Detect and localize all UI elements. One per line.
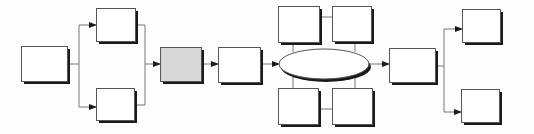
box-body	[161, 48, 202, 82]
ellipse-node-n6[interactable]	[279, 49, 371, 82]
box-node-n1[interactable]	[22, 47, 71, 85]
ellipse-body	[279, 49, 369, 79]
box-body	[97, 9, 136, 42]
box-node-n11[interactable]	[390, 49, 439, 86]
box-node-n4[interactable]	[161, 48, 205, 85]
box-node-n3[interactable]	[97, 89, 138, 124]
box-body	[463, 10, 501, 43]
box-node-n2[interactable]	[97, 9, 139, 45]
box-node-n9[interactable]	[279, 89, 322, 128]
box-body	[279, 89, 319, 125]
connector-n11-n13	[444, 66, 461, 112]
connector-n11-n12	[435, 29, 462, 66]
box-body	[22, 47, 68, 82]
box-node-n10[interactable]	[333, 89, 376, 128]
flowchart-canvas	[0, 0, 534, 134]
box-node-n8[interactable]	[333, 7, 375, 45]
box-body	[279, 7, 320, 43]
box-body	[97, 89, 135, 121]
box-body	[333, 7, 372, 42]
box-body	[462, 90, 500, 123]
flowchart-diagram	[0, 0, 534, 134]
connector-n1-n2	[67, 25, 96, 64]
box-body	[390, 49, 436, 83]
box-node-n5[interactable]	[219, 48, 264, 86]
box-node-n7[interactable]	[279, 7, 323, 46]
box-node-n12[interactable]	[463, 10, 504, 46]
box-body	[333, 89, 373, 125]
box-node-n13[interactable]	[462, 90, 503, 126]
connector-n1-n3	[79, 64, 96, 107]
box-body	[219, 48, 261, 83]
